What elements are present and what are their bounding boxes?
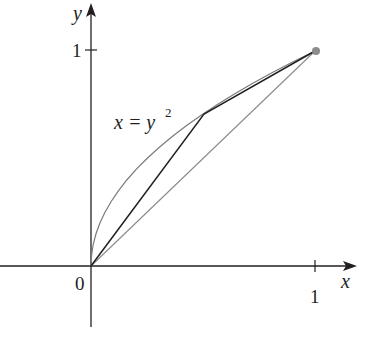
endpoint-dot xyxy=(312,47,320,55)
y-axis xyxy=(85,3,97,327)
diagonal-chord xyxy=(91,51,315,266)
curve-equation: x = y 2 xyxy=(113,105,172,134)
x-axis xyxy=(0,260,357,272)
y-tick-1-label: 1 xyxy=(72,40,82,61)
diagram-canvas: y 1 0 1 x x = y 2 xyxy=(0,0,377,338)
curve-eq-exponent: 2 xyxy=(165,105,172,120)
svg-text:x = y: x = y xyxy=(113,111,155,134)
x-axis-label: x xyxy=(340,270,350,292)
curve-eq-lhs: x = y xyxy=(113,111,155,134)
origin-label: 0 xyxy=(75,273,85,294)
x-tick-1-label: 1 xyxy=(310,286,320,307)
y-axis-label: y xyxy=(71,2,82,25)
